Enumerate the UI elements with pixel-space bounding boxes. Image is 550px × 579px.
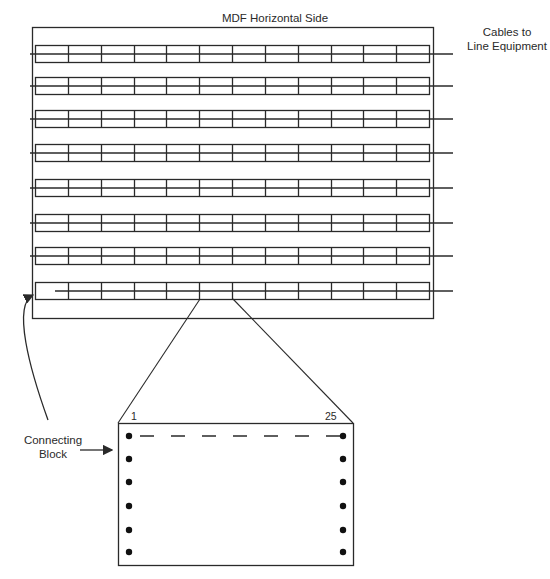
zoom-lines (118, 299, 353, 423)
pin-dot (340, 479, 346, 485)
terminal-strip (30, 247, 453, 265)
terminal-strip (30, 110, 453, 128)
pin-dot (340, 456, 346, 462)
terminal-strip (30, 77, 453, 95)
connecting-block-label-line1: Connecting (18, 433, 88, 447)
diagram-title: MDF Horizontal Side (210, 11, 340, 25)
pin-dot (126, 549, 132, 555)
connecting-block (119, 424, 354, 566)
connecting-block-label: Connecting Block (18, 433, 88, 461)
terminal-strip (30, 179, 453, 197)
terminal-strip (30, 214, 453, 232)
cables-label-line2: Line Equipment (462, 39, 550, 53)
pin-number-first: 1 (131, 409, 137, 423)
pin-dot (340, 527, 346, 533)
pin-dot (126, 433, 132, 439)
pin-dot (340, 433, 346, 439)
pin-dot (126, 503, 132, 509)
pin-dots (126, 433, 346, 555)
terminal-strip (30, 45, 453, 63)
pin-dot (126, 456, 132, 462)
pin-dot (340, 549, 346, 555)
mdf-diagram (0, 0, 550, 579)
pin-dot (126, 479, 132, 485)
connecting-block-label-line2: Block (18, 447, 88, 461)
curved-pointer-arrow (24, 295, 48, 420)
cables-label: Cables to Line Equipment (462, 25, 550, 53)
pin-number-last: 25 (325, 409, 337, 423)
terminal-strip (36, 282, 454, 300)
terminal-strips (30, 45, 453, 300)
mdf-frame (33, 28, 434, 319)
cables-label-line1: Cables to (462, 25, 550, 39)
terminal-strip (30, 144, 453, 162)
pin-dot (126, 527, 132, 533)
pin-dot (340, 503, 346, 509)
